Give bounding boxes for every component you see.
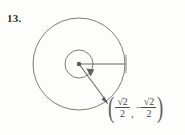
origin-point [77, 62, 81, 66]
coordinate-pair-label: ( √2 2 , − √2 2 ) [106, 96, 165, 120]
x-numerator: √2 [115, 97, 129, 107]
coordinate-comma: , [131, 108, 134, 120]
y-numerator: √2 [142, 97, 156, 107]
x-denominator: 2 [118, 109, 127, 119]
figure-page: 13. ( √2 2 , − √2 2 ) [0, 0, 185, 135]
close-paren: ) [157, 95, 163, 120]
open-paren: ( [108, 95, 114, 120]
y-denominator: 2 [144, 109, 153, 119]
x-coordinate-fraction: √2 2 [115, 97, 130, 119]
y-coordinate-fraction: √2 2 [141, 97, 156, 119]
